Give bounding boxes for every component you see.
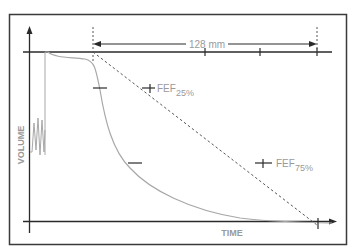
fef75-marker: FEF75% bbox=[255, 158, 313, 173]
dashed-diagonal bbox=[93, 52, 317, 225]
fef25-label: FEF25% bbox=[157, 83, 194, 98]
y-axis-label: VOLUME bbox=[16, 126, 26, 165]
expiration-curve bbox=[45, 52, 332, 223]
diagram-border bbox=[10, 15, 347, 245]
measure-arrow: 128 mm bbox=[93, 39, 317, 50]
spirometry-volume-time-diagram: 128 mm FEF25% FEF75% VOLUME TIME bbox=[0, 0, 355, 249]
fef75-label: FEF75% bbox=[276, 158, 313, 173]
x-axis-label: TIME bbox=[221, 228, 243, 238]
tidal-breathing-trace bbox=[30, 118, 45, 155]
measure-arrow-right-icon bbox=[309, 41, 317, 47]
top-baseline bbox=[23, 48, 332, 56]
x-axis-arrow-icon bbox=[329, 219, 337, 225]
y-axis bbox=[27, 26, 33, 233]
measure-label: 128 mm bbox=[189, 39, 225, 50]
measure-arrow-left-icon bbox=[93, 41, 101, 47]
y-axis-arrow-icon bbox=[27, 26, 33, 34]
